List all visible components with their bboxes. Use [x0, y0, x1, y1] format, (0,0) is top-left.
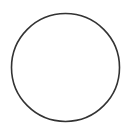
drawing-canvas — [0, 0, 129, 127]
circle-outline — [12, 14, 120, 122]
